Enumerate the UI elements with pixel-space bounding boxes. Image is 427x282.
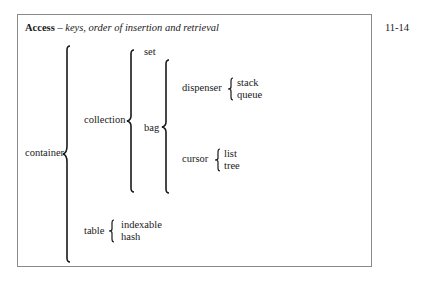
node-indexable: indexable [121,219,162,231]
node-bag: bag [144,122,159,134]
node-tree: tree [224,160,240,172]
brace-collection [126,50,136,192]
node-collection: collection [84,114,125,126]
node-container: container [25,147,64,159]
brace-table [108,220,116,242]
brace-container [62,46,72,262]
node-table: table [84,225,104,237]
node-stack: stack [237,77,259,89]
brace-dispenser [227,78,235,100]
node-queue: queue [237,89,262,101]
brace-bag [161,60,171,193]
node-dispenser: dispenser [182,82,222,94]
node-list: list [224,148,237,160]
slide-title: Access – keys, order of insertion and re… [25,22,219,34]
node-cursor: cursor [182,153,208,165]
brace-cursor [214,149,222,171]
node-set: set [144,46,156,58]
node-hash: hash [121,231,140,243]
page-number: 11-14 [385,22,409,34]
